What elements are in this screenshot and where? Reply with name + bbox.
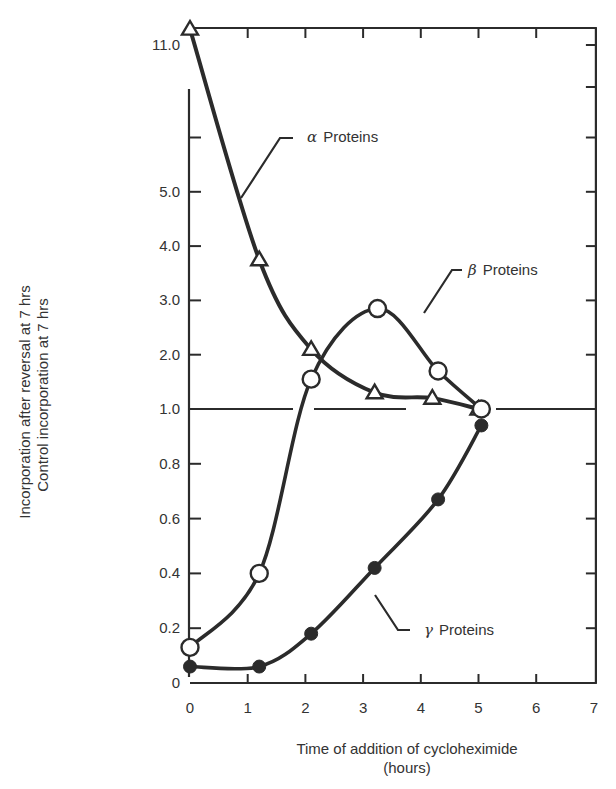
y-tick-label: 0: [172, 674, 180, 691]
plot-frame: [189, 28, 597, 683]
marker-open-circle: [473, 401, 490, 418]
y-tick-labels: 00.20.40.60.81.02.03.04.05.011.0: [152, 36, 180, 691]
series-markers: [182, 21, 490, 673]
chart: αProteins βProteins γProteins 00.20.40.6…: [0, 0, 616, 789]
y-tick-label: 4.0: [159, 237, 180, 254]
x-tick-labels: 01234567: [186, 699, 598, 716]
leader-gamma: [375, 595, 410, 630]
series-curves: [190, 29, 481, 669]
marker-open-circle: [251, 565, 268, 582]
x-tick-label: 5: [474, 699, 482, 716]
y-tick-label: 2.0: [159, 346, 180, 363]
y-tick-label: 0.2: [159, 619, 180, 636]
x-tick-label: 0: [186, 699, 194, 716]
y-tick-label: 0.4: [159, 564, 180, 581]
y-tick-label: 11.0: [152, 36, 180, 53]
curve-beta: [190, 309, 481, 648]
curve-alpha: [190, 29, 479, 409]
x-tick-label: 2: [301, 699, 309, 716]
y-tick-label: 0.8: [159, 455, 180, 472]
y-axis-title-line1: Incorporation after reversal at 7 hrs: [16, 285, 33, 518]
label-alpha-proteins: αProteins: [307, 128, 378, 146]
x-axis-unit: (hours): [383, 759, 431, 776]
marker-filled-circle: [475, 419, 488, 432]
label-leader-lines: [241, 138, 462, 630]
marker-triangle: [251, 252, 267, 266]
y-tick-label: 1.0: [159, 400, 180, 417]
x-tick-label: 4: [417, 699, 425, 716]
x-axis-title: Time of addition of cycloheximide: [296, 740, 517, 757]
y-tick-label: 5.0: [159, 183, 180, 200]
marker-filled-circle: [368, 561, 381, 574]
marker-open-circle: [430, 362, 447, 379]
curve-gamma: [190, 425, 481, 669]
leader-beta: [424, 270, 462, 313]
label-beta-proteins: βProteins: [467, 261, 538, 279]
marker-filled-circle: [305, 627, 318, 640]
y-tick-label: 3.0: [159, 291, 180, 308]
y-axis-title-line2: Control incorporation at 7 hrs: [34, 298, 51, 491]
y-tick-label: 0.6: [159, 510, 180, 527]
x-tick-label: 3: [359, 699, 367, 716]
x-tick-label: 7: [590, 699, 598, 716]
leader-alpha: [241, 138, 293, 198]
marker-filled-circle: [432, 493, 445, 506]
marker-filled-circle: [253, 660, 266, 673]
marker-filled-circle: [184, 660, 197, 673]
axis-ticks: [190, 28, 596, 683]
marker-open-circle: [182, 639, 199, 656]
label-gamma-proteins: γProteins: [424, 621, 494, 639]
x-tick-label: 1: [244, 699, 252, 716]
marker-open-circle: [303, 371, 320, 388]
marker-open-circle: [369, 300, 386, 317]
x-tick-label: 6: [532, 699, 540, 716]
